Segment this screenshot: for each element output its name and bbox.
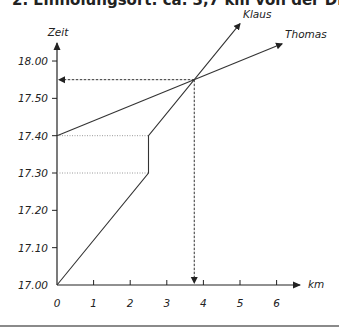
x-tick-label: 5 [237, 297, 244, 309]
x-axis-title: km [308, 278, 324, 290]
series-line-thomas [57, 44, 282, 136]
x-tick-label: 6 [273, 297, 280, 309]
x-tick-label: 1 [90, 297, 97, 309]
x-tick-label: 3 [163, 297, 170, 309]
axis-labels: 012345617.0017.1017.2017.3017.4017.5018.… [18, 8, 327, 309]
series-label-klaus: Klaus [243, 8, 272, 20]
series-label-thomas: Thomas [285, 28, 327, 40]
annotation-arrows [59, 80, 194, 283]
y-tick-label: 17.10 [18, 242, 48, 254]
bottom-divider [0, 325, 339, 327]
series-lines [57, 24, 282, 285]
y-tick-label: 17.30 [18, 167, 48, 179]
y-tick-label: 17.40 [18, 130, 48, 142]
y-tick-label: 17.50 [18, 92, 48, 104]
series-line-klaus [57, 24, 240, 285]
guide-lines [57, 136, 149, 173]
y-axis-title: Zeit [47, 26, 70, 38]
x-tick-label: 2 [127, 297, 134, 309]
x-tick-label: 4 [200, 297, 207, 309]
time-distance-chart: 012345617.0017.1017.2017.3017.4017.5018.… [0, 0, 339, 329]
x-tick-label: 0 [54, 297, 61, 309]
y-tick-label: 17.00 [18, 279, 48, 291]
y-tick-label: 17.20 [18, 204, 48, 216]
y-tick-label: 18.00 [18, 55, 48, 67]
